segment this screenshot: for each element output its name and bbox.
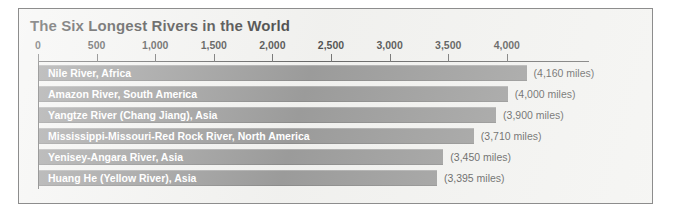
bar-row: Yenisey-Angara River, Asia(3,450 miles)	[39, 149, 639, 165]
bar-value-label: (4,160 miles)	[534, 65, 595, 81]
x-axis-tick-label: 4,000	[494, 39, 520, 51]
bar-row: Mississippi-Missouri-Red Rock River, Nor…	[39, 128, 639, 144]
chart-figure: The Six Longest Rivers in the World 0500…	[0, 0, 676, 222]
bar-row: Yangtze River (Chang Jiang), Asia(3,900 …	[39, 107, 639, 123]
x-axis-tick-label: 0	[35, 39, 41, 51]
x-axis-tick-label: 3,000	[376, 39, 402, 51]
x-axis-tick-mark	[507, 54, 508, 62]
x-axis-tick-mark	[38, 54, 39, 62]
x-axis-tick-mark	[272, 54, 273, 62]
x-axis-tick-mark	[155, 54, 156, 62]
bar-row: Huang He (Yellow River), Asia(3,395 mile…	[39, 170, 639, 186]
bar-category-label: Nile River, Africa	[48, 65, 131, 81]
x-axis-tick-label: 2,500	[318, 39, 344, 51]
x-axis-tick-label: 2,000	[259, 39, 285, 51]
bar-value-label: (3,450 miles)	[450, 149, 511, 165]
x-axis-tick-label: 500	[88, 39, 106, 51]
bars-plot-area: Nile River, Africa(4,160 miles)Amazon Ri…	[39, 65, 639, 191]
x-axis-tick-label: 1,000	[142, 39, 168, 51]
bar-category-label: Huang He (Yellow River), Asia	[48, 170, 196, 186]
x-axis-tick-label: 3,500	[435, 39, 461, 51]
x-axis-tick-mark	[331, 54, 332, 62]
bar-value-label: (4,000 miles)	[515, 86, 576, 102]
bar-row: Nile River, Africa(4,160 miles)	[39, 65, 639, 81]
bar-value-label: (3,710 miles)	[481, 128, 542, 144]
bar-value-label: (3,395 miles)	[444, 170, 505, 186]
chart-panel: The Six Longest Rivers in the World 0500…	[18, 8, 653, 204]
x-axis-tick-mark	[97, 54, 98, 62]
x-axis-tick-mark	[390, 54, 391, 62]
x-axis-tick-mark	[448, 54, 449, 62]
bar-category-label: Mississippi-Missouri-Red Rock River, Nor…	[48, 128, 310, 144]
bar-value-label: (3,900 miles)	[503, 107, 564, 123]
bar-category-label: Yenisey-Angara River, Asia	[48, 149, 183, 165]
x-axis-tick-label: 1,500	[201, 39, 227, 51]
x-axis-tick-mark	[214, 54, 215, 62]
bar-row: Amazon River, South America(4,000 miles)	[39, 86, 639, 102]
bar-category-label: Amazon River, South America	[48, 86, 197, 102]
bar-category-label: Yangtze River (Chang Jiang), Asia	[48, 107, 217, 123]
